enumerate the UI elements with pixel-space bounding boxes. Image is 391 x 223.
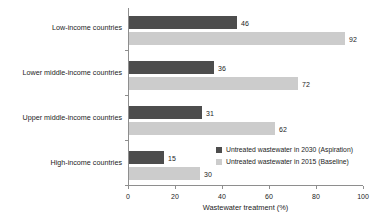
- chart-legend: Untreated wastewater in 2030 (Aspiration…: [216, 144, 353, 168]
- legend-swatch-icon-baseline: [216, 159, 222, 165]
- legend-item-baseline: Untreated wastewater in 2015 (Baseline): [216, 156, 353, 167]
- bar-aspiration-high-income: [129, 151, 164, 164]
- x-axis-tick: [363, 186, 364, 189]
- bar-value-aspiration-low-income: 46: [241, 19, 249, 26]
- x-axis-tick: [222, 186, 223, 189]
- bar-aspiration-lower-middle-income: [129, 61, 214, 74]
- legend-label-baseline: Untreated wastewater in 2015 (Baseline): [226, 158, 349, 165]
- bar-aspiration-low-income: [129, 16, 237, 29]
- bar-value-baseline-lower-middle-income: 72: [302, 80, 310, 87]
- bar-value-aspiration-lower-middle-income: 36: [218, 64, 226, 71]
- x-axis-title: Wastewater treatment (%): [128, 203, 363, 212]
- x-axis-tick-label-20: 20: [171, 193, 179, 200]
- category-label-low-income: Low-income countries: [0, 23, 122, 32]
- legend-swatch-icon-aspiration: [216, 147, 222, 153]
- x-axis-tick-label-80: 80: [312, 193, 320, 200]
- category-axis-labels: Low-income countries Lower middle-income…: [0, 8, 126, 186]
- y-axis-tick: [125, 140, 128, 141]
- x-axis-tick: [175, 186, 176, 189]
- y-axis-tick: [125, 50, 128, 51]
- bar-value-baseline-low-income: 92: [349, 35, 357, 42]
- bar-value-aspiration-upper-middle-income: 31: [206, 109, 214, 116]
- bar-value-aspiration-high-income: 15: [168, 154, 176, 161]
- x-axis-tick: [316, 186, 317, 189]
- x-axis-tick-label-0: 0: [126, 193, 130, 200]
- bar-aspiration-upper-middle-income: [129, 106, 202, 119]
- wastewater-treatment-bar-chart: Low-income countries Lower middle-income…: [0, 0, 391, 223]
- category-label-lower-middle-income: Lower middle-income countries: [0, 68, 122, 77]
- x-axis-tick: [269, 186, 270, 189]
- x-axis-tick-label-100: 100: [357, 193, 369, 200]
- x-axis-tick-label-40: 40: [218, 193, 226, 200]
- x-axis-line: [128, 185, 363, 186]
- x-axis-tick-label-60: 60: [265, 193, 273, 200]
- bar-value-baseline-upper-middle-income: 62: [279, 125, 287, 132]
- bar-baseline-lower-middle-income: [129, 77, 298, 90]
- bar-value-baseline-high-income: 30: [204, 170, 212, 177]
- x-axis-tick: [128, 186, 129, 189]
- legend-label-aspiration: Untreated wastewater in 2030 (Aspiration…: [226, 146, 353, 153]
- bar-baseline-low-income: [129, 32, 345, 45]
- y-axis-tick: [125, 95, 128, 96]
- legend-item-aspiration: Untreated wastewater in 2030 (Aspiration…: [216, 144, 353, 155]
- bar-baseline-upper-middle-income: [129, 122, 275, 135]
- bar-baseline-high-income: [129, 167, 200, 180]
- category-label-high-income: High-income countries: [0, 158, 122, 167]
- category-label-upper-middle-income: Upper middle-income countries: [0, 113, 122, 122]
